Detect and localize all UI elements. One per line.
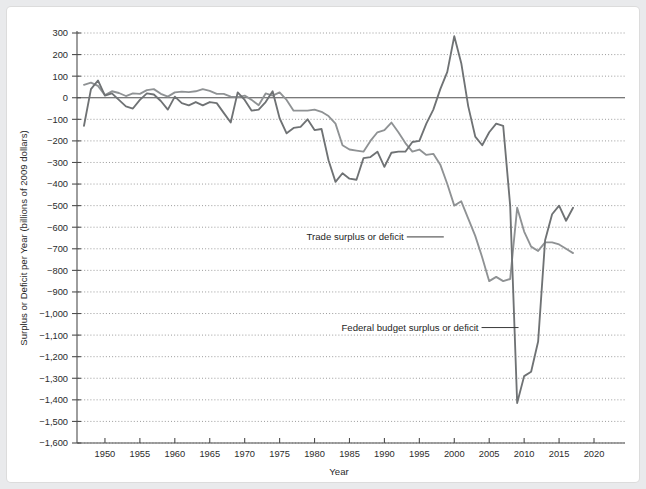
x-tick-label: 1955 bbox=[130, 449, 151, 459]
x-tick-label: 1995 bbox=[409, 449, 430, 459]
y-tick-label: −1,400 bbox=[39, 395, 68, 405]
y-tick-label: −800 bbox=[47, 266, 68, 276]
y-tick-label: −300 bbox=[47, 158, 68, 168]
x-tick-label: 1950 bbox=[95, 449, 116, 459]
y-tick-label: −1,300 bbox=[39, 374, 68, 384]
x-tick-label: 2000 bbox=[444, 449, 465, 459]
y-tick-label: −1,100 bbox=[39, 331, 68, 341]
x-tick-label: 1985 bbox=[339, 449, 360, 459]
x-tick-label: 1980 bbox=[304, 449, 325, 459]
x-tick-label: 2005 bbox=[479, 449, 500, 459]
annotation-label-trade: Trade surplus or deficit bbox=[307, 231, 405, 242]
annotation-label-federal: Federal budget surplus or deficit bbox=[341, 322, 478, 333]
x-tick-label: 1975 bbox=[269, 449, 290, 459]
y-tick-label: −100 bbox=[47, 115, 68, 125]
y-tick-label: −500 bbox=[47, 201, 68, 211]
x-tick-label: 1970 bbox=[234, 449, 255, 459]
y-tick-label: −900 bbox=[47, 287, 68, 297]
y-tick-label: 0 bbox=[63, 93, 68, 103]
y-tick-label: −1,200 bbox=[39, 352, 68, 362]
x-tick-label: 1990 bbox=[374, 449, 395, 459]
y-tick-label: −1,000 bbox=[39, 309, 68, 319]
y-tick-label: 300 bbox=[52, 28, 68, 38]
y-tick-label: −200 bbox=[47, 136, 68, 146]
x-tick-label: 2015 bbox=[549, 449, 570, 459]
y-tick-label: −1,600 bbox=[39, 438, 68, 448]
y-tick-label: 200 bbox=[52, 50, 68, 60]
x-axis-title: Year bbox=[329, 466, 349, 477]
y-tick-label: −700 bbox=[47, 244, 68, 254]
series-line-trade bbox=[84, 83, 573, 282]
y-axis-title: Surplus or Deficit per Year (billions of… bbox=[18, 130, 29, 345]
x-tick-label: 2010 bbox=[514, 449, 535, 459]
x-tick-label: 1960 bbox=[164, 449, 185, 459]
chart-plot-area: 3002001000−100−200−300−400−500−600−700−8… bbox=[7, 7, 639, 482]
x-tick-label: 2020 bbox=[584, 449, 605, 459]
y-tick-label: −400 bbox=[47, 179, 68, 189]
figure-card: 3002001000−100−200−300−400−500−600−700−8… bbox=[7, 7, 639, 482]
y-tick-label: −600 bbox=[47, 223, 68, 233]
line-chart: 3002001000−100−200−300−400−500−600−700−8… bbox=[7, 7, 639, 482]
x-tick-label: 1965 bbox=[199, 449, 220, 459]
y-tick-label: −1,500 bbox=[39, 417, 68, 427]
y-tick-label: 100 bbox=[52, 72, 68, 82]
